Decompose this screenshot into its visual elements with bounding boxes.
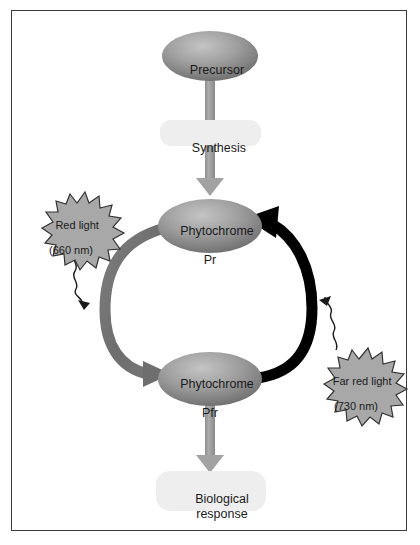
pr-to-pfr-arrow [105,228,171,387]
diagram-canvas [0,0,420,545]
precursor-node [162,31,258,81]
response-arrow [196,398,224,473]
synthesis-box [160,120,261,146]
biological-response-box [156,471,266,511]
red-light-burst [42,192,124,270]
far-red-light-burst [324,348,407,426]
phytochrome-pfr-node [158,352,262,406]
phytochrome-pr-node [158,199,262,253]
far-red-light-squiggle [319,296,337,350]
figure-root: Precursor Phytochrome Pr Phytochrome Pfr… [0,0,420,545]
